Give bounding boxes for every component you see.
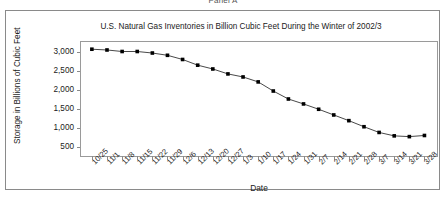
data-point-marker (166, 54, 170, 58)
data-point-marker (226, 72, 230, 76)
y-axis-caption-text: Storage in Billions of Cubic Feet (13, 24, 23, 148)
y-tick-label: 1,500 (28, 104, 74, 113)
data-point-marker (408, 135, 412, 139)
y-tick-label: 500 (28, 142, 74, 151)
data-point-marker (120, 50, 124, 54)
y-axis-caption: Storage in Billions of Cubic Feet (8, 29, 28, 154)
panel-label: Panel A (0, 0, 446, 3)
data-point-marker (135, 50, 139, 54)
data-point-marker (332, 113, 336, 117)
plot-area (80, 41, 438, 157)
data-point-marker (362, 125, 366, 129)
y-tick-label: 2,500 (28, 66, 74, 75)
y-tick-label: 1,000 (28, 123, 74, 132)
series-line (92, 49, 425, 136)
y-tick-label: 2,000 (28, 85, 74, 94)
data-point-marker (90, 47, 94, 51)
data-point-marker (347, 119, 351, 123)
data-point-marker (196, 63, 200, 67)
data-point-marker (271, 89, 275, 93)
figure-panel: Panel A U.S. Natural Gas Inventories in … (0, 0, 446, 199)
data-point-marker (241, 75, 245, 79)
data-point-marker (392, 134, 396, 138)
data-point-marker (302, 102, 306, 106)
data-point-marker (287, 97, 291, 101)
data-point-marker (256, 80, 260, 84)
chart-title: U.S. Natural Gas Inventories in Billion … (46, 22, 436, 31)
x-axis-caption: Date (80, 183, 438, 193)
data-point-marker (377, 131, 381, 135)
data-point-marker (105, 48, 109, 52)
y-tick-label: 3,000 (28, 47, 74, 56)
data-point-marker (211, 67, 215, 71)
data-point-marker (317, 107, 321, 111)
data-point-marker (151, 51, 155, 55)
figure-frame: U.S. Natural Gas Inventories in Billion … (5, 10, 440, 190)
data-point-marker (423, 134, 427, 138)
data-point-marker (181, 58, 185, 62)
data-series-natural-gas-inventories (81, 42, 437, 156)
